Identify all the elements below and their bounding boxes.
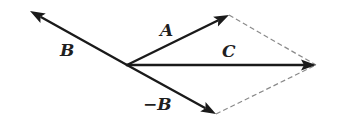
- arrowhead-icon: [30, 11, 46, 23]
- label-neg-b: −B: [143, 94, 172, 114]
- vector-c: [127, 60, 316, 71]
- vector-a: [127, 15, 229, 65]
- label-b: B: [59, 40, 74, 60]
- label-a: A: [158, 20, 173, 40]
- label-c: C: [222, 41, 236, 61]
- vector-b-shaft: [41, 17, 127, 65]
- dashed-line-a-to-c: [229, 15, 316, 65]
- vector-diagram: B A C −B: [0, 0, 340, 123]
- vector-b: [30, 11, 127, 65]
- dashed-line-negb-to-c: [216, 65, 316, 114]
